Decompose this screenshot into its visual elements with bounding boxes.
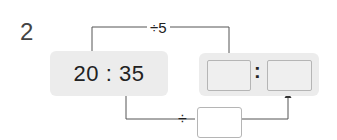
result-separator: : (254, 60, 261, 83)
divisor-blank[interactable] (197, 107, 242, 138)
original-ratio-box: 20 : 35 (50, 51, 168, 96)
result-first-blank[interactable] (207, 60, 251, 91)
top-operation-label: ÷5 (147, 19, 170, 36)
original-ratio: 20 : 35 (74, 61, 145, 87)
bottom-operator-label: ÷ (178, 110, 187, 128)
result-second-blank[interactable] (267, 60, 312, 91)
